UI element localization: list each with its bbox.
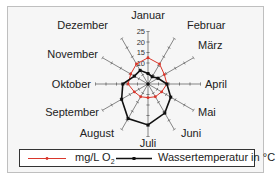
o2-data-point [147, 96, 150, 99]
o2-marker-icon [46, 157, 49, 160]
temperature-data-point [151, 75, 154, 78]
tick-label: 15 [137, 48, 145, 57]
category-label: April [205, 78, 227, 90]
o2-data-point [135, 63, 138, 66]
temperature-data-point [121, 83, 124, 86]
category-label: Dezember [57, 19, 108, 31]
o2-data-point [163, 73, 166, 76]
category-label: Februar [187, 19, 226, 31]
temp-marker-icon [133, 157, 136, 160]
tick-label: 20 [137, 38, 145, 47]
category-label: Juni [181, 127, 201, 139]
category-label: Mai [198, 106, 216, 118]
category-label: November [47, 48, 98, 60]
category-label: Juli [140, 137, 157, 149]
temperature-data-point [157, 77, 160, 80]
temperature-data-point [127, 117, 130, 120]
center-point [146, 82, 150, 86]
category-label: März [198, 39, 222, 51]
o2-data-point [133, 90, 136, 93]
temperature-data-point [147, 123, 150, 126]
o2-data-point [127, 83, 130, 86]
legend: mg/L O2 Wassertemperatur in °C [19, 149, 255, 167]
legend-temp-label: Wassertemperatur in °C [158, 151, 272, 163]
category-label: Oktober [52, 78, 91, 90]
o2-data-point [147, 56, 150, 59]
temperature-data-point [169, 96, 172, 99]
category-label: August [80, 127, 114, 139]
temperature-data-point [133, 75, 136, 78]
o2-data-point [158, 63, 161, 66]
category-label: September [45, 106, 99, 118]
o2-data-point [129, 73, 132, 76]
temperature-data-point [139, 69, 142, 72]
temperature-data-point [147, 72, 150, 75]
legend-o2-label: mg/L O2 [75, 151, 115, 165]
o2-data-point [154, 95, 157, 98]
tick-label: 25 [137, 27, 145, 36]
temperature-data-point [163, 112, 166, 115]
category-label: Januar [131, 9, 165, 21]
o2-data-point [160, 90, 163, 93]
temperature-data-point [120, 98, 123, 101]
o2-data-point [139, 95, 142, 98]
figure-frame: JanuarFebruarMärzAprilMaiJuniJuliAugustS… [0, 0, 272, 182]
temperature-data-point [165, 83, 168, 86]
